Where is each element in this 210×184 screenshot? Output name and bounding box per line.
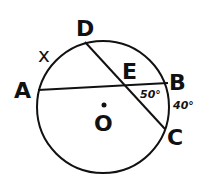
label-d: D: [76, 16, 94, 41]
angle-label-50: 50°: [140, 88, 161, 101]
arc-label-x: x: [38, 43, 50, 67]
label-e: E: [122, 59, 137, 84]
label-o: O: [94, 111, 113, 136]
arc-label-40: 40°: [172, 99, 194, 112]
label-a: A: [14, 78, 31, 103]
center-dot: [102, 103, 107, 108]
label-c: C: [167, 125, 183, 150]
circle-diagram: A D E B C O 50° 40° x: [0, 0, 210, 184]
label-b: B: [169, 70, 186, 95]
